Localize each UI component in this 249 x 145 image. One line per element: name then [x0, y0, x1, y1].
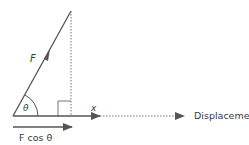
- x-axis-label: x: [90, 103, 97, 113]
- force-arrowhead-icon: [44, 49, 50, 61]
- force-label: F: [30, 53, 36, 64]
- work-force-diagram: F θ x F cos θ Displacement: [0, 0, 249, 145]
- force-vector-line: [13, 11, 71, 116]
- angle-label: θ: [23, 103, 29, 113]
- component-label: F cos θ: [19, 132, 52, 143]
- displacement-label: Displacement: [194, 110, 249, 121]
- right-angle-marker: [58, 101, 71, 116]
